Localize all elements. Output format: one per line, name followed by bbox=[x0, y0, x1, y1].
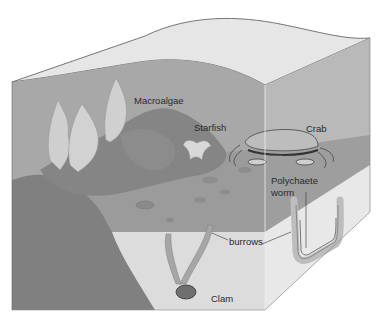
pebble bbox=[136, 201, 154, 209]
habitat-illustration bbox=[0, 0, 382, 326]
label-clam: Clam bbox=[211, 293, 233, 304]
label-polychaete: Polychaete bbox=[271, 175, 318, 186]
pebble bbox=[202, 177, 218, 184]
label-macroalgae: Macroalgae bbox=[134, 95, 184, 106]
pebble bbox=[220, 190, 230, 195]
label-crab: Crab bbox=[306, 123, 327, 134]
pebble bbox=[166, 218, 174, 222]
label-starfish: Starfish bbox=[194, 122, 226, 133]
label-burrows: burrows bbox=[229, 236, 263, 247]
habitat-diagram: Macroalgae Starfish Crab Polychaete worm… bbox=[0, 0, 382, 326]
pebble bbox=[194, 197, 206, 203]
label-worm: worm bbox=[271, 187, 294, 198]
clam bbox=[176, 285, 196, 299]
pebble bbox=[238, 167, 252, 173]
